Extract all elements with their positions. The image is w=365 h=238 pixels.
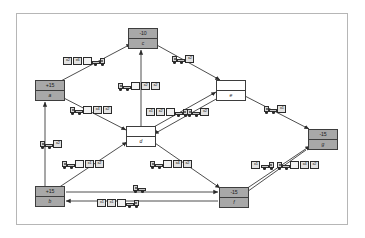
cargo-box-blank [163,160,172,168]
cargo-box-blank [117,199,126,207]
cargo-box: x6 [73,57,82,65]
edge-label-l-de1: x2x1 [146,105,188,117]
cargo-box: x1 [97,199,106,207]
cargo-box-blank [83,106,92,114]
node-f[interactable]: -15 f [219,187,249,208]
cargo-box: x2 [185,55,194,63]
cargo-box: x2 [103,106,112,114]
edge-label-l-ce: x2 [172,52,195,64]
node-e-label: e [217,91,245,100]
node-b[interactable]: +15 b [35,186,65,207]
node-c[interactable]: -10 c [128,28,158,49]
edge-label-l-fg2: x4x2 [277,158,319,170]
edge-label-l-ac: x6x2 [63,54,105,66]
node-e[interactable]: e [216,80,246,101]
truck-icon [261,161,274,170]
node-a[interactable]: +15 a [35,80,65,101]
truck-icon [277,161,290,170]
cargo-box: x1 [85,160,94,168]
node-a-value: +15 [36,81,64,91]
cargo-box-blank [166,108,175,116]
truck-icon [150,160,163,169]
cargo-box: x4 [93,106,102,114]
cargo-box: x4 [173,160,182,168]
node-d-value [127,127,155,137]
cargo-box: x2 [95,160,104,168]
edge-label-l-df: x4x2 [150,157,192,169]
cargo-box: x1 [251,161,260,169]
edge-label-l-ab: x2 [40,137,63,149]
node-g-value: -15 [309,130,337,140]
cargo-box-blank [131,82,140,90]
cargo-box: x1 [146,108,155,116]
edge-g-f [244,150,306,194]
cargo-box: x1 [277,105,286,113]
node-b-value: +15 [36,187,64,197]
edge-label-l-fg1: x1 [251,158,274,170]
node-g[interactable]: -15 g [308,129,338,150]
edge-label-l-bf [133,181,146,193]
edge-label-l-dc: x2x2 [118,79,160,91]
node-e-value [217,81,245,91]
node-b-label: b [36,197,64,206]
cargo-box: x2 [156,108,165,116]
cargo-box-blank [290,161,299,169]
cargo-box: x2 [151,82,160,90]
cargo-box: x2 [200,108,209,116]
truck-icon [126,199,139,208]
node-a-label: a [36,91,64,100]
truck-icon [133,184,146,193]
edge-label-l-ad: x4x2 [70,103,112,115]
cargo-box: x2 [141,82,150,90]
edge-label-l-bd: x1x2 [62,157,104,169]
node-c-label: c [129,39,157,48]
node-f-label: f [220,198,248,207]
truck-icon [70,106,83,115]
truck-icon [187,108,200,117]
cargo-box-blank [83,57,92,65]
node-g-label: g [309,140,337,149]
cargo-box: x2 [53,140,62,148]
node-f-value: -15 [220,188,248,198]
truck-icon [40,140,53,149]
truck-icon [62,160,75,169]
node-d[interactable]: d [126,126,156,147]
truck-icon [264,105,277,114]
truck-icon [92,57,105,66]
edge-label-l-eg: x1 [264,102,287,114]
edge-label-l-de2: x2 [187,105,210,117]
cargo-box: x1 [107,199,116,207]
node-c-value: -10 [129,29,157,39]
cargo-box: x2 [183,160,192,168]
edge-label-l-fb: x1x1 [97,196,139,208]
cargo-box: x2 [310,161,319,169]
truck-icon [172,55,185,64]
truck-icon [118,82,131,91]
cargo-box: x2 [63,57,72,65]
node-d-label: d [127,137,155,146]
cargo-box-blank [75,160,84,168]
cargo-box: x4 [300,161,309,169]
diagram-canvas: -10 c +15 a e d -15 g +15 b -15 f x6x2x2… [0,0,365,238]
